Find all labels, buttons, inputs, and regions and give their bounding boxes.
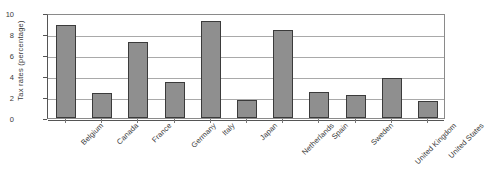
y-tick-label-6: 6 [0, 52, 14, 61]
bar-spain[interactable] [309, 92, 329, 118]
bar-slot [193, 15, 229, 118]
x-label-france: France [150, 121, 173, 144]
y-tick-label-4: 4 [0, 73, 14, 82]
y-tick-label-0: 0 [0, 115, 14, 124]
bar-slot [301, 15, 337, 118]
bar-france[interactable] [128, 42, 148, 118]
bar-sweden[interactable] [346, 95, 366, 118]
bar-united-states[interactable] [418, 101, 438, 118]
bar-slot [120, 15, 156, 118]
bar-slot [265, 15, 301, 118]
y-tick-label-2: 2 [0, 94, 14, 103]
bar-united-kingdom[interactable] [382, 78, 402, 118]
x-label-italy: Italy [220, 121, 236, 137]
x-label-belgium: Belgium [79, 121, 105, 147]
y-axis-title: Tax rates (percentage) [16, 1, 25, 121]
bar-series [48, 15, 444, 118]
bar-italy[interactable] [201, 21, 221, 118]
bar-canada[interactable] [92, 93, 112, 118]
bar-slot [410, 15, 446, 118]
x-label-sweden: Sweden [369, 121, 395, 147]
bar-slot [84, 15, 120, 118]
bar-slot [48, 15, 84, 118]
x-label-germany: Germany [189, 121, 218, 150]
bar-japan[interactable] [237, 100, 257, 118]
bar-slot [374, 15, 410, 118]
bar-belgium[interactable] [56, 25, 76, 118]
bar-netherlands[interactable] [273, 30, 293, 118]
bar-slot [157, 15, 193, 118]
x-label-united-kingdom: United Kingdom [413, 121, 458, 166]
x-label-netherlands: Netherlands [300, 121, 336, 157]
x-label-japan: Japan [258, 121, 279, 142]
bar-germany[interactable] [165, 82, 185, 118]
plot-area [47, 14, 445, 119]
x-label-canada: Canada [115, 121, 140, 146]
y-tick-label-8: 8 [0, 31, 14, 40]
y-tick-label-10: 10 [0, 10, 14, 19]
bar-slot [337, 15, 373, 118]
x-axis-labels: BelgiumCanadaFranceGermanyItalyJapanNeth… [47, 121, 445, 179]
y-tick-mark-0 [43, 119, 47, 120]
bar-slot [229, 15, 265, 118]
